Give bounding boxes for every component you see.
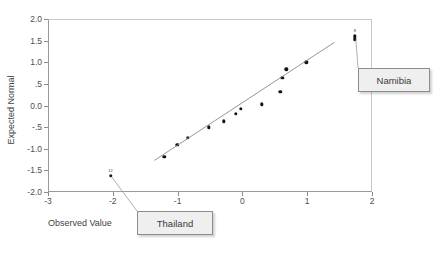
callout-namibia-label: Namibia: [377, 75, 412, 86]
callout-thailand-label: Thailand: [157, 218, 193, 229]
reference-line: [154, 42, 334, 160]
leader-line-namibia: [356, 39, 358, 68]
overlay-lines: [0, 0, 440, 254]
leader-line-thailand: [112, 177, 137, 211]
callout-thailand[interactable]: Thailand: [137, 211, 213, 235]
callout-namibia[interactable]: Namibia: [358, 68, 430, 92]
qq-plot-figure: Expected Normal Observed Value 2.01.51.0…: [0, 0, 440, 254]
